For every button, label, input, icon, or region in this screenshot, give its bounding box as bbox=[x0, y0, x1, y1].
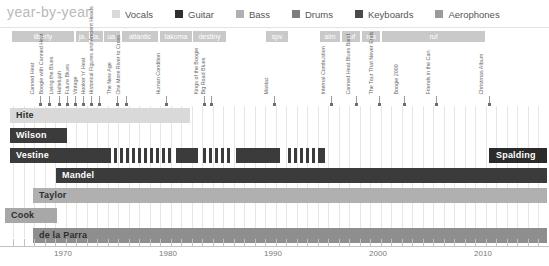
record-label[interactable]: aim bbox=[320, 31, 340, 42]
record-label[interactable]: ja. bbox=[76, 31, 89, 42]
activity-bar[interactable] bbox=[132, 148, 135, 163]
member-row[interactable]: Wilson bbox=[0, 128, 549, 143]
member-name-label: Wilson bbox=[11, 128, 53, 143]
axis-tick bbox=[223, 239, 224, 246]
record-label[interactable]: destiny bbox=[193, 31, 226, 42]
member-row[interactable]: Cook bbox=[0, 208, 549, 223]
activity-bar[interactable] bbox=[294, 148, 297, 163]
legend-drums[interactable]: Drums bbox=[292, 9, 333, 20]
year-by-year-chart: year-by-year VocalsGuitarBassDrumsKeyboa… bbox=[0, 0, 549, 266]
axis-tick bbox=[276, 239, 277, 246]
activity-bar[interactable] bbox=[300, 148, 303, 163]
axis-tick bbox=[486, 239, 487, 246]
record-label-band: libertyja.la.ua.atlantictakomadestinyspv… bbox=[0, 31, 549, 42]
axis-tick bbox=[402, 239, 403, 246]
album-marker[interactable]: Christmas Album bbox=[485, 44, 494, 106]
axis-tick bbox=[202, 239, 203, 246]
member-row[interactable]: Mandel bbox=[0, 168, 549, 183]
axis-tick bbox=[66, 239, 67, 246]
activity-bar[interactable] bbox=[150, 148, 153, 163]
legend-keyboards[interactable]: Keyboards bbox=[355, 9, 413, 20]
member-row[interactable]: Taylor bbox=[0, 188, 549, 203]
axis-tick bbox=[97, 239, 98, 246]
axis-tick bbox=[339, 239, 340, 246]
axis-tick bbox=[433, 239, 434, 246]
album-marker[interactable]: Big Road Blues bbox=[207, 44, 216, 106]
activity-bar[interactable] bbox=[203, 148, 206, 163]
axis-tick bbox=[13, 239, 14, 246]
activity-bar[interactable] bbox=[227, 148, 230, 163]
activity-bar[interactable] bbox=[168, 148, 171, 163]
album-marker[interactable]: One More River to Cross bbox=[122, 44, 131, 106]
activity-bar[interactable] bbox=[176, 148, 198, 163]
axis-year-label: 1990 bbox=[264, 249, 282, 258]
album-title: The New Age bbox=[107, 63, 113, 95]
activity-bar[interactable] bbox=[138, 148, 141, 163]
album-marker[interactable]: Friends in the Can bbox=[432, 44, 441, 106]
record-label[interactable]: ruf bbox=[382, 31, 485, 42]
axis-tick bbox=[465, 239, 466, 246]
record-label[interactable]: atlantic bbox=[122, 31, 158, 42]
axis-tick bbox=[234, 239, 235, 246]
axis-tick bbox=[192, 239, 193, 246]
header-divider bbox=[0, 27, 549, 28]
legend-bass[interactable]: Bass bbox=[236, 9, 270, 20]
axis-year-label: 1980 bbox=[159, 249, 177, 258]
album-marker[interactable]: Mastaz bbox=[270, 44, 279, 106]
axis-year-label: 2010 bbox=[474, 249, 492, 258]
activity-bar[interactable] bbox=[288, 148, 291, 163]
activity-bar[interactable] bbox=[215, 148, 218, 163]
axis-tick bbox=[139, 239, 140, 246]
legend-guitar[interactable]: Guitar bbox=[175, 9, 214, 20]
member-row[interactable]: Hite bbox=[0, 108, 549, 123]
axis-tick bbox=[181, 239, 182, 246]
album-marker[interactable]: Canned Heat Blues Band bbox=[352, 44, 361, 106]
album-markers: Canned HeatBoogie with Canned HeatLiving… bbox=[0, 44, 549, 106]
legend: VocalsGuitarBassDrumsKeyboardsAerophones bbox=[112, 7, 522, 21]
activity-bar[interactable] bbox=[56, 168, 547, 183]
legend-aerophones[interactable]: Aerophones bbox=[435, 9, 499, 20]
activity-bar[interactable] bbox=[162, 148, 165, 163]
legend-guitar-swatch-icon bbox=[175, 10, 183, 18]
record-label[interactable]: spv bbox=[266, 31, 288, 42]
axis-tick bbox=[34, 239, 35, 246]
activity-bar[interactable] bbox=[120, 148, 123, 163]
member-name-label: Spalding bbox=[491, 148, 542, 163]
album-marker[interactable]: Boogie 2000 bbox=[400, 44, 409, 106]
axis-tick bbox=[349, 239, 350, 246]
axis-tick bbox=[108, 239, 109, 246]
activity-bar[interactable] bbox=[126, 148, 129, 163]
record-label[interactable]: takoma bbox=[160, 31, 192, 42]
activity-bar[interactable] bbox=[318, 148, 325, 163]
activity-bar[interactable] bbox=[209, 148, 212, 163]
album-marker[interactable]: The Tour That Never Ends bbox=[375, 44, 384, 106]
activity-bar[interactable] bbox=[144, 148, 147, 163]
axis-tick bbox=[129, 239, 130, 246]
album-title: Internal Combustion bbox=[321, 47, 327, 95]
axis-tick bbox=[160, 239, 161, 246]
album-marker[interactable]: Internal Combustion bbox=[327, 44, 336, 106]
legend-aerophones-swatch-icon bbox=[435, 10, 443, 18]
album-marker[interactable]: Human Condition bbox=[162, 44, 171, 106]
activity-bar[interactable] bbox=[306, 148, 309, 163]
member-row[interactable]: VestineSpalding bbox=[0, 148, 549, 163]
axis-tick bbox=[496, 239, 497, 246]
axis-tick bbox=[328, 239, 329, 246]
axis-tick bbox=[454, 239, 455, 246]
activity-bar[interactable] bbox=[312, 148, 315, 163]
album-marker[interactable]: Historical Figures and Ancient Heads bbox=[95, 44, 104, 106]
activity-bar[interactable] bbox=[236, 148, 280, 163]
axis-tick bbox=[118, 239, 119, 246]
activity-bar[interactable] bbox=[33, 188, 547, 203]
activity-bar[interactable] bbox=[114, 148, 117, 163]
album-title: Hooker 'n' Heat bbox=[81, 58, 87, 95]
axis-year-label: 2000 bbox=[369, 249, 387, 258]
member-name-label: Taylor bbox=[34, 188, 73, 203]
legend-vocals[interactable]: Vocals bbox=[112, 9, 153, 20]
album-title: Friends in the Can bbox=[426, 51, 432, 95]
member-name-label: Mandel bbox=[57, 168, 100, 183]
activity-bar[interactable] bbox=[156, 148, 159, 163]
axis-tick bbox=[391, 239, 392, 246]
activity-bar[interactable] bbox=[221, 148, 224, 163]
axis-tick bbox=[45, 239, 46, 246]
